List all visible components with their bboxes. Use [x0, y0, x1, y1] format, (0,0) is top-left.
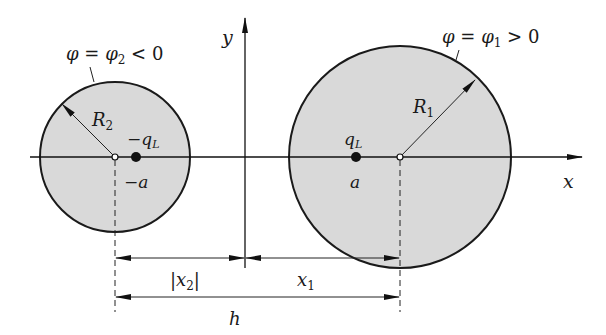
- phi1-leader-line: [456, 50, 459, 60]
- negative-a-label: −a: [124, 172, 148, 192]
- x2-distance-label: |x2|: [170, 269, 200, 293]
- negative-line-charge: [131, 152, 141, 162]
- positive-line-charge: [351, 152, 361, 162]
- left-center-marker: [112, 154, 118, 160]
- x-axis-label: x: [563, 170, 574, 192]
- a-label: a: [350, 172, 360, 192]
- right-center-marker: [397, 154, 403, 160]
- y-axis-label: y: [221, 26, 233, 48]
- two-cylinder-diagram: y x φ = φ2 < 0 φ = φ1 > 0 R2 R1 −qL qL −…: [0, 0, 606, 335]
- phi2-leader-line: [90, 67, 94, 82]
- phi1-label: φ = φ1 > 0: [442, 26, 539, 50]
- phi2-label: φ = φ2 < 0: [66, 43, 163, 67]
- h-distance-label: h: [229, 308, 241, 329]
- x1-distance-label: x1: [297, 269, 315, 293]
